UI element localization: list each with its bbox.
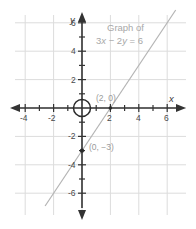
grid-lines	[15, 15, 186, 215]
x-axis	[10, 104, 186, 112]
coordinate-graph-figure: Graph of 3x − 2y = 6 (2, 0) (0, −3) y x …	[0, 0, 196, 229]
graph-canvas	[0, 0, 196, 229]
